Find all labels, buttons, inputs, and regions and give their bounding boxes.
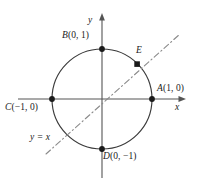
point-label-e-name: E <box>136 45 142 55</box>
point-marker-a <box>149 96 155 102</box>
point-marker-e <box>134 61 140 67</box>
x-axis-arrow <box>179 96 187 102</box>
point-marker-c <box>49 96 55 102</box>
point-label-d-coords: (0, −1) <box>110 151 137 161</box>
point-label-d: D(0, −1) <box>103 152 137 162</box>
point-label-c: C(−1, 0) <box>5 103 38 113</box>
point-label-b-coords: (0, 1) <box>68 30 89 40</box>
line-equation-label: y = x <box>30 133 50 143</box>
point-label-b: B(0, 1) <box>62 31 89 41</box>
y-axis-arrow <box>99 13 105 21</box>
line-equation-text: y = x <box>30 132 50 142</box>
point-label-d-name: D <box>103 151 110 161</box>
line-y-equals-x <box>46 34 180 154</box>
point-marker-b <box>99 46 105 52</box>
point-label-a: A(1, 0) <box>157 84 184 94</box>
point-label-e: E <box>136 46 142 56</box>
point-label-c-coords: (−1, 0) <box>11 102 38 112</box>
unit-circle-diagram: y x A(1, 0) B(0, 1) C(−1, 0) D(0, −1) E … <box>0 0 205 184</box>
x-axis-label: x <box>175 103 179 113</box>
point-label-a-coords: (1, 0) <box>163 83 184 93</box>
y-axis-label: y <box>88 16 92 26</box>
